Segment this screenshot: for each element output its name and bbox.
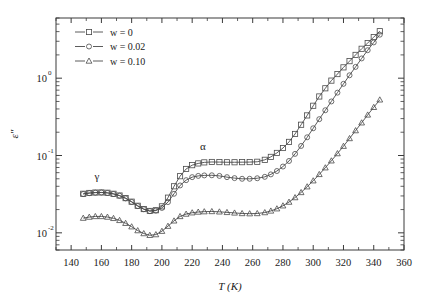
- y-tick-exponent: 0: [48, 69, 52, 77]
- annotation-1: α: [200, 140, 206, 152]
- y-tick-exponent: -2: [48, 224, 54, 232]
- annotation-0: γ: [93, 170, 99, 182]
- x-tick-label: 300: [305, 257, 321, 268]
- x-tick-label: 220: [184, 257, 200, 268]
- x-tick-label: 200: [154, 257, 170, 268]
- y-tick-exponent: -1: [48, 147, 54, 155]
- legend-label-0: w = 0: [110, 27, 133, 38]
- x-axis-title: T (K): [218, 280, 242, 293]
- x-tick-label: 260: [245, 257, 261, 268]
- x-tick-label: 340: [366, 257, 382, 268]
- x-tick-label: 320: [336, 257, 352, 268]
- x-tick-label: 240: [215, 257, 231, 268]
- chart-canvas: 140160180200220240260280300320340360 10-…: [0, 0, 429, 297]
- chart-background: [0, 0, 429, 297]
- y-tick-label: 10: [37, 73, 48, 84]
- dielectric-loss-chart: 140160180200220240260280300320340360 10-…: [0, 0, 429, 297]
- y-tick-label: 10: [37, 151, 48, 162]
- legend-label-1: w = 0.02: [110, 41, 145, 52]
- x-tick-label: 160: [94, 257, 110, 268]
- x-tick-label: 180: [124, 257, 140, 268]
- x-tick-label: 360: [396, 257, 412, 268]
- y-axis-title: ε″: [8, 129, 20, 138]
- x-tick-label: 140: [63, 257, 79, 268]
- y-tick-label: 10: [37, 228, 48, 239]
- legend-label-2: w = 0.10: [110, 56, 145, 67]
- x-tick-label: 280: [275, 257, 291, 268]
